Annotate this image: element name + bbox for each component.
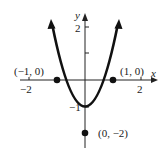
point-label-left: (−1, 0) [14,65,44,78]
point-0-neg2 [82,130,89,137]
x-axis-label: x [150,67,156,79]
point-label-right: (1, 0) [120,65,144,78]
curve-arrow-right-icon [115,19,123,29]
tick-label-x-neg2: −2 [20,83,32,95]
point-1-0 [110,77,117,84]
point-label-vertex: (0, −2) [98,127,128,140]
tick-label-y-2: 2 [75,22,81,34]
graph: x y −2 2 2 −1 (−1, 0) (1, 0) (0, −2) [0,0,165,150]
tick-label-x-2: 2 [137,83,143,95]
point-neg1-0 [54,77,61,84]
y-axis-label: y [74,9,80,21]
curve-arrow-left-icon [48,19,56,29]
y-axis-arrow-icon [82,13,88,21]
tick-label-y-neg1: −1 [69,101,81,113]
